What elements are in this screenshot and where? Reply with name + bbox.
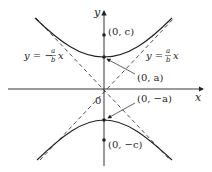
focus-top-label: (0, c) bbox=[108, 26, 134, 37]
focus-bottom-label: (0, −c) bbox=[108, 139, 143, 150]
focus-bottom-point bbox=[102, 138, 106, 142]
svg-text:a: a bbox=[51, 47, 55, 55]
vertex-bottom-pointer-arrow bbox=[108, 103, 135, 118]
focus-top-point bbox=[102, 33, 106, 37]
svg-text:a: a bbox=[166, 47, 170, 55]
vertex-top-pointer-arrow bbox=[107, 59, 135, 74]
svg-text:x: x bbox=[58, 50, 64, 61]
vertex-bottom-label: (0, −a) bbox=[137, 93, 172, 104]
vertex-top-label: (0, a) bbox=[137, 72, 164, 83]
origin-label: 0 bbox=[95, 95, 101, 106]
x-axis-label: x bbox=[195, 91, 202, 104]
y-axis-label: y bbox=[93, 6, 101, 19]
svg-text:y = −: y = − bbox=[23, 50, 53, 61]
svg-text:b: b bbox=[166, 56, 171, 64]
hyperbola-diagram: y x 0 (0, c) (0, a) (0, −a) (0, −c) y = … bbox=[0, 0, 212, 172]
svg-text:x: x bbox=[173, 50, 179, 61]
asymptote-right-equation: y = a b x bbox=[145, 47, 179, 64]
vertex-bottom-point bbox=[102, 118, 106, 122]
asymptote-left-equation: y = − a b x bbox=[23, 47, 64, 64]
svg-text:b: b bbox=[51, 56, 56, 64]
svg-text:y =: y = bbox=[145, 50, 163, 61]
vertex-top-point bbox=[102, 55, 106, 59]
